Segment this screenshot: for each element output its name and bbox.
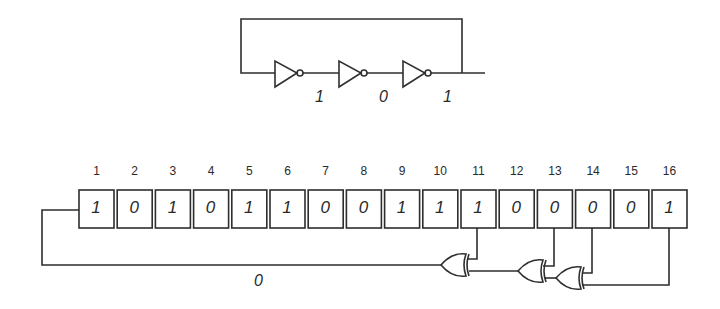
xor-gate-1 (441, 254, 469, 277)
register-index-label: 9 (387, 164, 417, 178)
register-bit-value: 0 (537, 198, 571, 218)
register-bit-value: 1 (232, 198, 266, 218)
register-bit-value: 1 (79, 198, 113, 218)
tap-wire-13 (543, 228, 554, 266)
tap-wire-16 (582, 228, 669, 285)
ring-node-value-3: 1 (443, 88, 452, 106)
ring-feedback-wire (241, 19, 462, 73)
register-bit-value: 1 (155, 198, 189, 218)
register-bit-value: 0 (614, 198, 648, 218)
register-index-label: 15 (616, 164, 646, 178)
xor-gate-3 (556, 267, 584, 290)
feedback-value: 0 (254, 272, 263, 290)
register-bit-value: 1 (385, 198, 419, 218)
register-index-label: 16 (655, 164, 685, 178)
register-index-label: 11 (464, 164, 494, 178)
register-index-label: 13 (540, 164, 570, 178)
inverter-1 (275, 61, 303, 87)
register-bit-value: 0 (346, 198, 380, 218)
register-index-label: 6 (273, 164, 303, 178)
register-bit-value: 1 (652, 198, 686, 218)
register-index-label: 14 (578, 164, 608, 178)
xor-gate-2 (518, 260, 546, 283)
register-index-label: 1 (82, 164, 112, 178)
register-bit-value: 0 (308, 198, 342, 218)
ring-node-value-1: 1 (315, 88, 324, 106)
tap-wire-14 (583, 228, 592, 273)
register-index-label: 2 (120, 164, 150, 178)
circuit-diagram (0, 0, 720, 309)
register-index-label: 12 (502, 164, 532, 178)
register-index-label: 10 (425, 164, 455, 178)
register-bit-value: 0 (499, 198, 533, 218)
register-bit-value: 1 (461, 198, 495, 218)
inverter-2 (339, 61, 367, 87)
register-bit-value: 0 (194, 198, 228, 218)
ring-node-value-2: 0 (379, 88, 388, 106)
register-index-label: 8 (349, 164, 379, 178)
register-index-label: 3 (158, 164, 188, 178)
inverter-3 (403, 61, 431, 87)
register-bit-value: 1 (423, 198, 457, 218)
register-index-label: 5 (234, 164, 264, 178)
register-index-label: 4 (196, 164, 226, 178)
register-index-label: 7 (311, 164, 341, 178)
register-bit-value: 0 (576, 198, 610, 218)
ring-oscillator (241, 19, 485, 87)
register-bit-value: 1 (270, 198, 304, 218)
register-bit-value: 0 (117, 198, 151, 218)
